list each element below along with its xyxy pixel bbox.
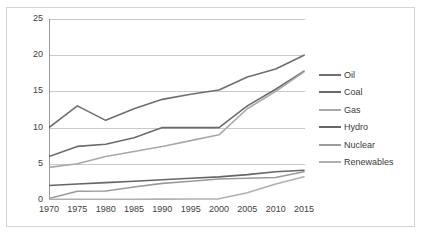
legend-item-gas[interactable]: Gas bbox=[319, 101, 411, 119]
x-tick-label: 2015 bbox=[287, 204, 321, 214]
y-tick-label: 10 bbox=[17, 123, 43, 132]
legend-label: Nuclear bbox=[344, 140, 375, 150]
legend-swatch-icon bbox=[319, 74, 341, 76]
series-lines bbox=[49, 55, 304, 199]
legend-swatch-icon bbox=[319, 161, 341, 163]
y-tick-label: 5 bbox=[17, 159, 43, 168]
y-tick-label: 20 bbox=[17, 50, 43, 59]
legend-label: Hydro bbox=[344, 122, 368, 132]
series-line-gas bbox=[49, 72, 304, 168]
chart-frame: 0510152025 19701975198019851990199520002… bbox=[6, 7, 415, 227]
series-line-nuclear bbox=[49, 172, 304, 199]
legend-label: Oil bbox=[344, 70, 355, 80]
x-axis-labels: 1970197519801985199019952000200520102015 bbox=[49, 204, 305, 218]
plot-area bbox=[49, 19, 305, 200]
chart-legend: OilCoalGasHydroNuclearRenewables bbox=[319, 66, 411, 171]
line-chart-svg bbox=[49, 19, 305, 200]
legend-item-renewables[interactable]: Renewables bbox=[319, 154, 411, 172]
legend-label: Renewables bbox=[344, 157, 394, 167]
legend-item-nuclear[interactable]: Nuclear bbox=[319, 136, 411, 154]
y-tick-label: 25 bbox=[17, 14, 43, 23]
y-tick-label: 0 bbox=[17, 195, 43, 204]
legend-swatch-icon bbox=[319, 109, 341, 111]
y-axis-labels: 0510152025 bbox=[15, 19, 43, 200]
legend-swatch-icon bbox=[319, 144, 341, 146]
legend-item-coal[interactable]: Coal bbox=[319, 84, 411, 102]
legend-swatch-icon bbox=[319, 91, 341, 93]
legend-label: Gas bbox=[344, 105, 361, 115]
legend-item-oil[interactable]: Oil bbox=[319, 66, 411, 84]
series-line-renewables bbox=[49, 177, 304, 199]
legend-item-hydro[interactable]: Hydro bbox=[319, 119, 411, 137]
y-tick-label: 15 bbox=[17, 86, 43, 95]
legend-swatch-icon bbox=[319, 126, 341, 128]
legend-label: Coal bbox=[344, 87, 363, 97]
